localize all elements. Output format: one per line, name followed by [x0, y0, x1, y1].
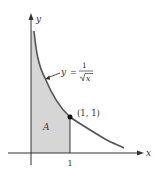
function-denominator: x [86, 74, 91, 83]
x-axis-arrow-icon [137, 151, 144, 156]
function-eq: = [70, 68, 77, 77]
point-1-1 [68, 115, 73, 120]
function-numerator: 1 [82, 61, 87, 70]
x-axis-label: x [146, 148, 151, 158]
diagram-canvas: y x 1 y = 1 x (1, 1) A [0, 0, 155, 174]
y-axis-arrow-icon [29, 13, 34, 20]
y-axis-label: y [35, 14, 42, 24]
function-lhs: y [60, 67, 67, 77]
x-tick-label-1: 1 [68, 159, 73, 168]
point-label: (1, 1) [77, 108, 100, 118]
region-label: A [42, 122, 50, 132]
